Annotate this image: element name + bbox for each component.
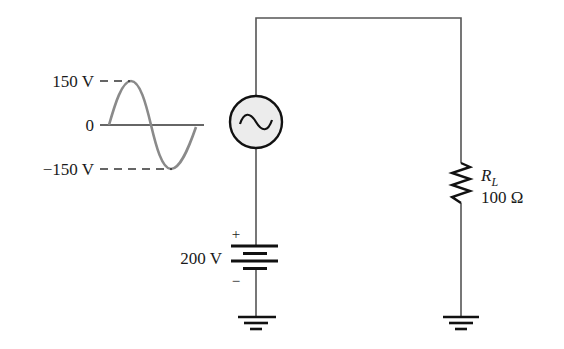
dc-battery: + − 200 V	[180, 226, 278, 289]
ground-icon	[443, 317, 479, 329]
battery-voltage-label: 200 V	[180, 249, 222, 268]
ac-source	[230, 96, 282, 148]
zero-label: 0	[86, 116, 95, 135]
resistor-zigzag	[452, 163, 470, 203]
waveform-plot: 150 V 0 −150 V	[43, 72, 204, 179]
battery-plus-label: +	[232, 226, 240, 242]
load-resistor: RL 100 Ω	[452, 163, 523, 207]
peak-label: 150 V	[52, 72, 94, 91]
ground-icon	[238, 317, 276, 329]
trough-label: −150 V	[43, 160, 95, 179]
battery-minus-label: −	[232, 273, 240, 289]
resistor-name-label: RL	[480, 166, 498, 189]
top-wire	[256, 18, 461, 163]
resistor-value-label: 100 Ω	[481, 188, 523, 207]
circuit-diagram: 150 V 0 −150 V + − 200 V RL 100 Ω	[0, 0, 564, 349]
resistor-name-subscript: L	[490, 175, 498, 189]
